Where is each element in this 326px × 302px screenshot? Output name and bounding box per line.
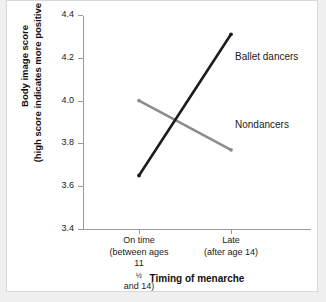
series-label-ballet-dancers: Ballet dancers xyxy=(235,51,298,62)
x-category-line3-pre: 11 xyxy=(84,258,194,270)
ballet-dancers-line xyxy=(139,34,231,175)
y-axis-title-line2: (high score indicates more positive imag… xyxy=(31,0,44,166)
nondancers-point-on-time xyxy=(137,99,141,103)
y-axis-title-line1: Body image score xyxy=(18,0,31,166)
x-axis-title: Timing of menarche xyxy=(83,273,311,284)
ballet-dancers-point-late xyxy=(229,32,233,36)
x-category-line1: Late xyxy=(176,235,286,247)
series-ballet-dancers xyxy=(137,32,233,177)
nondancers-line xyxy=(139,101,231,150)
ballet-dancers-point-on-time xyxy=(137,174,141,178)
nondancers-point-late xyxy=(229,148,233,152)
series-label-nondancers: Nondancers xyxy=(235,119,289,130)
y-axis-title: Body image score (high score indicates m… xyxy=(18,0,44,166)
plot-area: 3.4 3.6 3.8 4.0 4.2 4.4 xyxy=(7,1,319,293)
chart-figure-panel: 3.4 3.6 3.8 4.0 4.2 4.4 xyxy=(6,0,318,292)
x-category-label-late: Late (after age 14) xyxy=(176,235,286,258)
x-category-line2: (after age 14) xyxy=(176,247,286,259)
